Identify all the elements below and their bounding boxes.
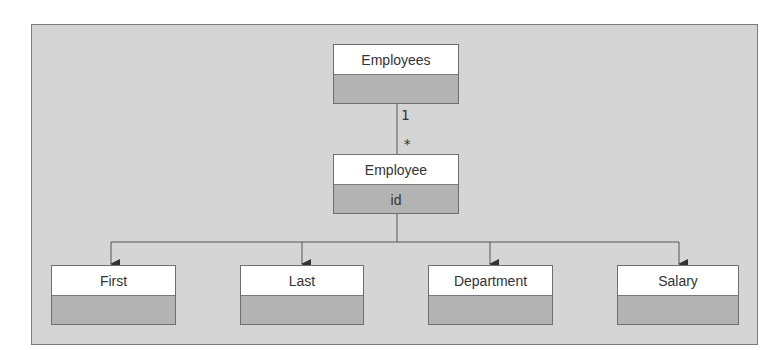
class-attributes: id	[334, 185, 458, 214]
class-attributes	[334, 75, 458, 104]
class-attributes	[241, 296, 363, 325]
class-name: Employee	[334, 155, 458, 185]
class-attributes	[429, 296, 552, 325]
class-attributes	[618, 296, 738, 325]
class-name: Department	[429, 266, 552, 296]
class-first[interactable]: First	[51, 265, 176, 325]
class-attributes	[52, 296, 175, 325]
class-name: Employees	[334, 45, 458, 75]
class-department[interactable]: Department	[428, 265, 553, 325]
class-employee[interactable]: Employee id	[333, 154, 459, 214]
class-employees[interactable]: Employees	[333, 44, 459, 104]
class-name: First	[52, 266, 175, 296]
class-name: Salary	[618, 266, 738, 296]
class-salary[interactable]: Salary	[617, 265, 739, 325]
multiplicity-source: 1	[401, 107, 409, 123]
class-last[interactable]: Last	[240, 265, 364, 325]
class-name: Last	[241, 266, 363, 296]
multiplicity-target: *	[403, 136, 411, 152]
